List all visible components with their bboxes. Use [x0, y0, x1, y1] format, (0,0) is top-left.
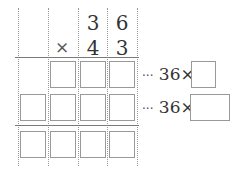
column-guide-2	[48, 8, 49, 166]
column-guide-1	[18, 8, 19, 166]
column-guide-5	[137, 8, 138, 166]
partial1-annotation: ··· 36×	[142, 64, 195, 86]
partial2-box-tens[interactable]	[80, 94, 106, 121]
partial2-answer-box[interactable]	[190, 94, 230, 121]
times-sign: ×	[55, 37, 69, 57]
partial2-box-thousands[interactable]	[20, 94, 46, 121]
multiplicand-tens: 3	[79, 13, 107, 33]
ellipsis: ···	[142, 69, 153, 83]
partial1-box-ones[interactable]	[109, 61, 135, 88]
multiplicand-ones: 6	[108, 13, 136, 33]
result-box-ones[interactable]	[109, 131, 135, 158]
multiplier-tens: 4	[79, 38, 107, 58]
partial2-annotation: ··· 36×	[142, 97, 195, 119]
partial1-answer-box[interactable]	[191, 61, 216, 88]
factor: 36	[159, 97, 181, 117]
partial1-box-tens[interactable]	[80, 61, 106, 88]
result-box-thousands[interactable]	[20, 131, 46, 158]
result-box-tens[interactable]	[80, 131, 106, 158]
partial1-box-hundreds[interactable]	[50, 61, 76, 88]
multiplier-ones: 3	[108, 38, 136, 58]
ellipsis: ···	[142, 102, 153, 116]
factor: 36	[159, 64, 181, 84]
result-box-hundreds[interactable]	[50, 131, 76, 158]
partial2-box-hundreds[interactable]	[50, 94, 76, 121]
partial2-box-ones[interactable]	[109, 94, 135, 121]
sum-rule	[15, 125, 139, 126]
